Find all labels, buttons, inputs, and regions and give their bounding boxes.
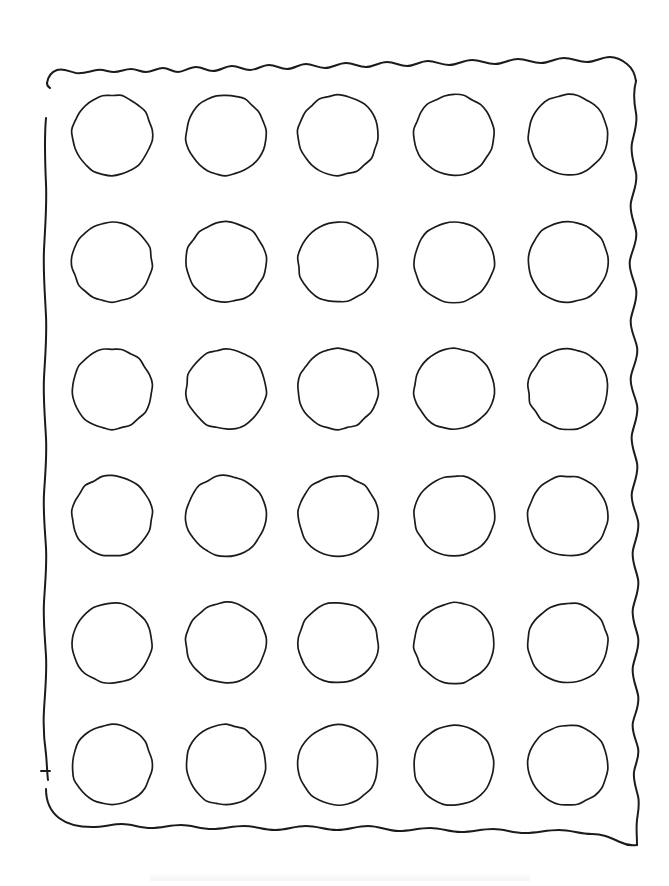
grid-circle (72, 603, 152, 683)
grid-circle (298, 603, 379, 683)
grid-circle (298, 476, 378, 557)
grid-circle (185, 475, 266, 556)
grid-circle (528, 222, 608, 303)
grid-circle (186, 724, 265, 805)
border-top-edge (47, 57, 636, 83)
scanned-page (0, 0, 669, 886)
grid-circle (414, 222, 495, 303)
grid-circle (185, 602, 266, 683)
grid-circle (186, 221, 267, 302)
circle-grid (71, 94, 608, 805)
grid-circle (528, 603, 608, 682)
border-left-edge-upper-stub (47, 83, 50, 88)
grid-circle (414, 348, 495, 429)
grid-circle (186, 349, 267, 429)
grid-circle (414, 476, 495, 556)
grid-circle (297, 95, 378, 176)
grid-circle (528, 349, 608, 430)
grid-circle (298, 222, 378, 302)
grid-circle (298, 724, 378, 805)
border-right-edge (630, 81, 639, 845)
grid-circle (72, 95, 153, 176)
border-left-edge (44, 118, 48, 780)
drawing-canvas (0, 0, 669, 886)
grid-circle (528, 476, 608, 555)
grid-circle (528, 725, 608, 805)
grid-circle (528, 94, 608, 175)
grid-circle (72, 349, 152, 430)
grid-circle (414, 602, 494, 683)
grid-circle (298, 348, 379, 430)
grid-circle (186, 95, 267, 176)
grid-circle (72, 475, 153, 555)
grid-circle (413, 94, 494, 175)
grid-circle (414, 725, 494, 805)
border-bottom-edge (92, 824, 637, 845)
grid-circle (73, 724, 153, 805)
grid-circle (71, 222, 152, 302)
